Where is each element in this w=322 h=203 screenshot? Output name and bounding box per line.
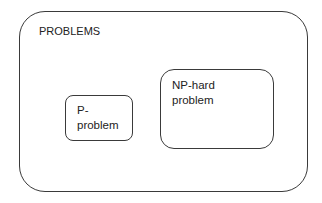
np-hard-problem-label: NP-hard problem — [172, 78, 215, 108]
p-problem-label: P- problem — [77, 103, 119, 133]
problems-set-label: PROBLEMS — [39, 24, 100, 39]
